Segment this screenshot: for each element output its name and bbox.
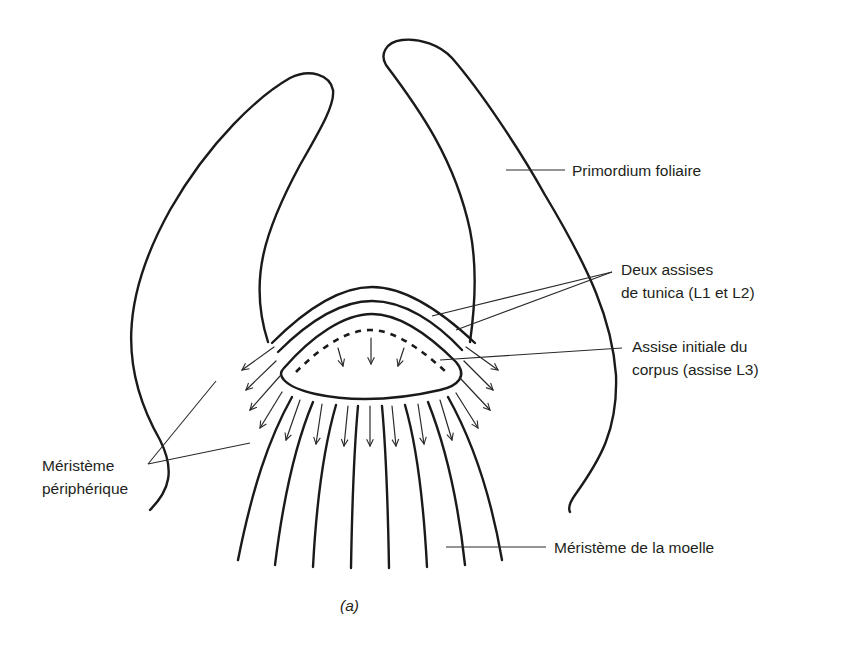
label-tunica-line2: de tunica (L1 et L2) [621,281,755,304]
label-peripheral-meristem: Méristème périphérique [42,454,128,500]
label-corpus-line2: corpus (assise L3) [632,358,759,381]
left-leaf-primordium [131,73,333,510]
meristem-diagram [0,0,842,652]
label-tunica: Deux assises de tunica (L1 et L2) [621,258,755,304]
peripheral-arrows-right [456,347,498,428]
label-primordium-foliaire: Primordium foliaire [572,159,701,182]
label-peripheral-line1: Méristème [42,454,128,477]
label-corpus: Assise initiale du corpus (assise L3) [632,335,759,381]
label-peripheral-line2: périphérique [42,477,128,500]
label-corpus-line1: Assise initiale du [632,335,759,358]
label-tunica-line1: Deux assises [621,258,755,281]
corpus-arrows [338,338,404,366]
leader-tunica-l2 [456,272,612,330]
leader-tunica-l1 [432,272,612,316]
figure-caption: (a) [340,597,359,615]
leader-corpus [440,348,622,360]
label-pith-meristem: Méristème de la moelle [554,536,714,559]
peripheral-arrows-left [242,347,282,428]
right-leaf-primordium [384,40,617,512]
